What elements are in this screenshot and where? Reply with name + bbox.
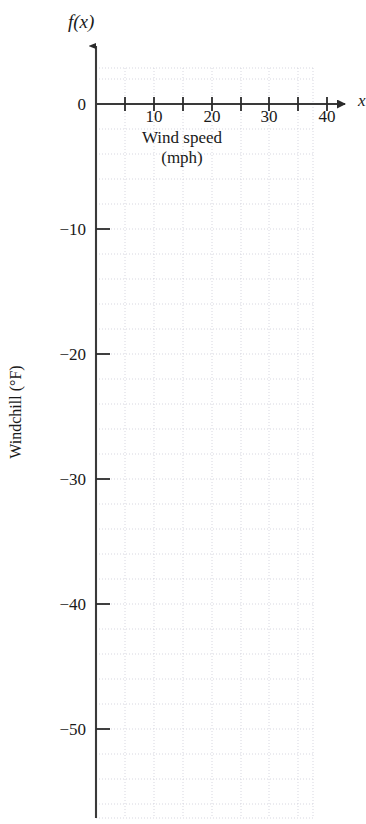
x-axis-title-line1: Wind speed xyxy=(142,128,222,148)
x-axis-variable-label: x xyxy=(358,92,366,109)
x-tick-label-30: 30 xyxy=(261,108,278,125)
y-tick-label-minus-30: −30 xyxy=(26,471,86,488)
x-tick-label-10: 10 xyxy=(146,108,163,125)
y-tick-label-minus-10: −10 xyxy=(26,221,86,238)
grid-vertical-lines xyxy=(96,68,313,818)
x-axis-title: Wind speed (mph) xyxy=(142,128,222,167)
y-axis-title: Windchill (°F) xyxy=(8,312,24,512)
y-axis-function-label: f(x) xyxy=(68,12,94,31)
y-tick-label-minus-50: −50 xyxy=(26,721,86,738)
y-tick-label-minus-40: −40 xyxy=(26,596,86,613)
y-tick-label-minus-20: −20 xyxy=(26,346,86,363)
x-tick-label-20: 20 xyxy=(204,108,221,125)
grid-horizontal-lines xyxy=(96,68,313,818)
x-axis-title-line2: (mph) xyxy=(142,148,222,168)
x-tick-label-40: 40 xyxy=(319,108,336,125)
y-tick-label-0: 0 xyxy=(26,96,86,113)
